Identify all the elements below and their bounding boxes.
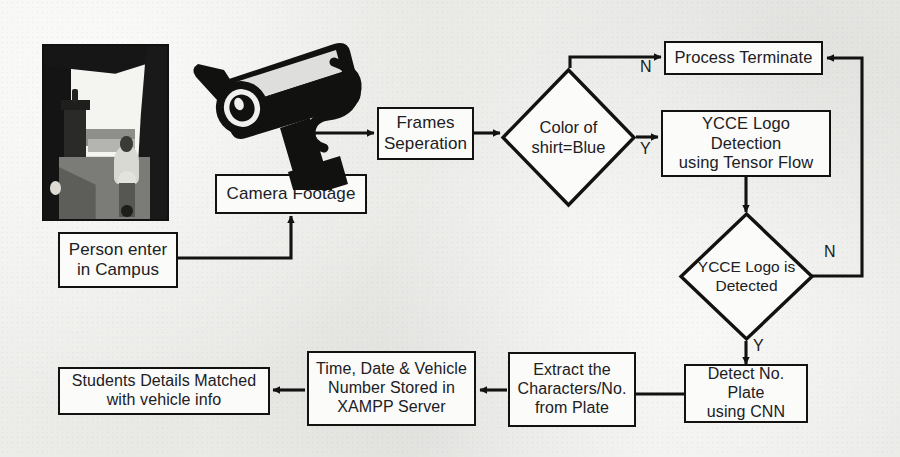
node-frames-seperation[interactable]: Frames Seperation bbox=[377, 107, 474, 160]
node-students-details-matched[interactable]: Students Details Matched with vehicle in… bbox=[58, 367, 270, 415]
node-label: Frames Seperation bbox=[381, 113, 470, 153]
decision-label: YCCE Logo is Detected bbox=[678, 211, 815, 342]
node-label: Time, Date & Vehicle Number Stored in XA… bbox=[313, 360, 470, 417]
branch-label-ycce-yes: Y bbox=[753, 337, 764, 355]
photo-foreground-object bbox=[50, 181, 61, 195]
node-label: YCCE Logo Detection using Tensor Flow bbox=[663, 114, 829, 172]
node-detect-no-plate[interactable]: Detect No. Plate using CNN bbox=[684, 364, 808, 423]
node-extract-characters[interactable]: Extract the Characters/No. from Plate bbox=[508, 352, 636, 427]
node-label: Students Details Matched with vehicle in… bbox=[69, 372, 260, 410]
node-store-xampp-server[interactable]: Time, Date & Vehicle Number Stored in XA… bbox=[307, 351, 476, 426]
node-person-enter-in-campus[interactable]: Person enter in Campus bbox=[58, 232, 178, 288]
campus-entrance-photo bbox=[42, 44, 169, 221]
photo-pillar-lamp bbox=[72, 89, 78, 103]
decision-ycce-logo-is-detected[interactable]: YCCE Logo is Detected bbox=[678, 211, 815, 342]
node-label: Detect No. Plate using CNN bbox=[686, 365, 806, 422]
node-ycce-logo-detection[interactable]: YCCE Logo Detection using Tensor Flow bbox=[661, 110, 831, 177]
edge-person-to-footage bbox=[176, 216, 291, 258]
decision-color-of-shirt[interactable]: Color of shirt=Blue bbox=[500, 67, 637, 208]
branch-label-ycce-no: N bbox=[824, 243, 836, 261]
decision-label: Color of shirt=Blue bbox=[500, 67, 637, 208]
node-label: Person enter in Campus bbox=[66, 240, 171, 280]
flowchart-canvas: Person enter in Campus Camera Footage Fr… bbox=[0, 0, 900, 457]
branch-label-color-no: N bbox=[640, 58, 652, 76]
photo-bike-wheel bbox=[121, 205, 132, 217]
node-label: Process Terminate bbox=[671, 48, 815, 67]
node-label: Extract the Characters/No. from Plate bbox=[515, 361, 630, 418]
cctv-camera-icon bbox=[184, 20, 374, 190]
node-process-terminate[interactable]: Process Terminate bbox=[664, 41, 823, 75]
photo-rider-head bbox=[120, 136, 132, 152]
branch-label-color-yes: Y bbox=[640, 140, 651, 158]
